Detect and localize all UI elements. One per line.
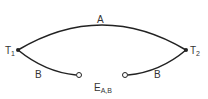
label-b-right: B <box>154 69 161 80</box>
label-emf: EA,B <box>94 82 112 94</box>
open-terminal-right <box>123 73 128 78</box>
conductor-b-left-wire <box>18 50 76 75</box>
open-terminal-left <box>77 73 82 78</box>
label-b-left: B <box>35 69 42 80</box>
label-a: A <box>97 14 104 25</box>
conductor-a-wire <box>18 25 186 50</box>
label-t2: T2 <box>190 45 200 57</box>
junction-t2-dot <box>184 48 188 52</box>
label-t1: T1 <box>5 45 15 57</box>
thermocouple-diagram: A B B T1 T2 EA,B <box>0 0 208 99</box>
junction-t1-dot <box>16 48 20 52</box>
